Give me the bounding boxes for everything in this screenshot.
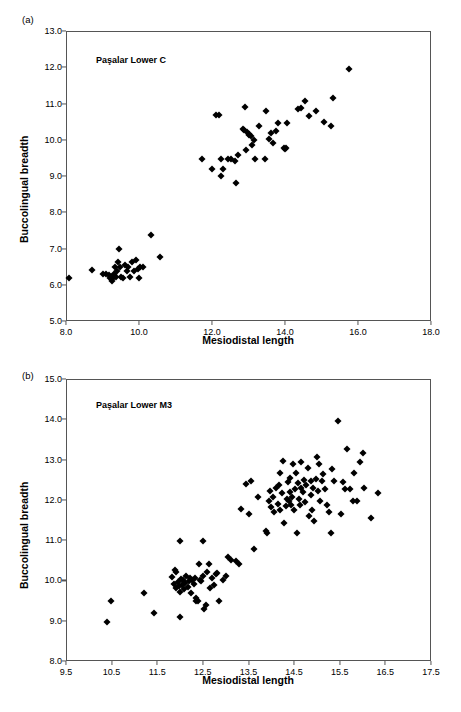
x-tick-label-b-6: 15.5 (331, 667, 349, 677)
x-tick-mark-a-0 (65, 321, 66, 325)
y-tick-label-a-1: 6.0 (28, 280, 62, 290)
x-tick-mark-a-2 (211, 321, 212, 325)
figure-scatter-pair: (a) Paşalar Lower C 5.06.07.08.09.010.01… (0, 0, 461, 712)
y-tick-label-b-5: 13.0 (28, 455, 62, 465)
y-tick-mark-b-3 (62, 540, 66, 541)
x-tick-label-a-4: 16.0 (349, 327, 367, 337)
x-tick-mark-b-4 (248, 661, 249, 665)
x-axis-title-b: Mesiodistal length (202, 674, 294, 686)
y-tick-mark-b-1 (62, 620, 66, 621)
x-tick-mark-b-5 (294, 661, 295, 665)
y-tick-mark-a-3 (62, 212, 66, 213)
x-tick-mark-b-1 (111, 661, 112, 665)
y-tick-label-a-4: 9.0 (28, 171, 62, 181)
x-tick-label-b-7: 16.5 (377, 667, 395, 677)
y-tick-label-a-5: 10.0 (28, 135, 62, 145)
y-tick-label-a-7: 12.0 (28, 62, 62, 72)
y-tick-label-a-2: 7.0 (28, 244, 62, 254)
x-tick-mark-b-0 (65, 661, 66, 665)
y-axis-title-a: Buccolingual breadth (18, 136, 30, 243)
y-tick-label-b-7: 15.0 (28, 374, 62, 384)
x-tick-mark-b-2 (157, 661, 158, 665)
y-tick-mark-b-4 (62, 499, 66, 500)
x-tick-mark-a-4 (357, 321, 358, 325)
y-tick-mark-b-7 (62, 378, 66, 379)
y-tick-label-b-1: 9.0 (28, 616, 62, 626)
x-tick-mark-a-3 (284, 321, 285, 325)
y-tick-mark-b-2 (62, 580, 66, 581)
plot-area-b (66, 379, 431, 661)
x-tick-label-b-2: 11.5 (149, 667, 166, 677)
panel-b: (b) Paşalar Lower M3 8.09.010.011.012.01… (0, 356, 461, 712)
x-axis-title-a: Mesiodistal length (202, 334, 294, 346)
y-tick-label-a-8: 13.0 (28, 26, 62, 36)
x-tick-mark-b-6 (339, 661, 340, 665)
y-axis-title-b: Buccolingual breadth (18, 482, 30, 589)
y-tick-mark-a-6 (62, 103, 66, 104)
y-tick-label-b-4: 12.0 (28, 495, 62, 505)
panel-a: (a) Paşalar Lower C 5.06.07.08.09.010.01… (0, 0, 461, 356)
x-tick-label-a-0: 8.0 (60, 327, 73, 337)
x-tick-label-b-1: 10.5 (103, 667, 121, 677)
y-tick-label-b-6: 14.0 (28, 414, 62, 424)
y-tick-label-a-3: 8.0 (28, 207, 62, 217)
y-tick-mark-b-6 (62, 419, 66, 420)
y-tick-mark-b-5 (62, 459, 66, 460)
panel-a-label: (a) (22, 14, 34, 25)
y-tick-mark-a-1 (62, 284, 66, 285)
x-tick-label-b-0: 9.5 (60, 667, 73, 677)
x-tick-mark-a-1 (138, 321, 139, 325)
x-tick-mark-a-5 (430, 321, 431, 325)
y-tick-mark-a-7 (62, 67, 66, 68)
plot-title-a: Paşalar Lower C (96, 55, 166, 65)
y-tick-label-a-0: 5.0 (28, 316, 62, 326)
y-tick-label-a-6: 11.0 (28, 99, 62, 109)
y-tick-label-b-2: 10.0 (28, 575, 62, 585)
x-tick-mark-b-3 (202, 661, 203, 665)
y-tick-mark-a-4 (62, 175, 66, 176)
x-tick-label-a-1: 10.0 (130, 327, 148, 337)
y-tick-mark-a-2 (62, 248, 66, 249)
x-tick-mark-b-8 (430, 661, 431, 665)
x-tick-mark-b-7 (385, 661, 386, 665)
y-tick-label-b-3: 11.0 (28, 535, 62, 545)
plot-title-b: Paşalar Lower M3 (96, 400, 172, 410)
y-tick-mark-a-5 (62, 139, 66, 140)
y-tick-label-b-0: 8.0 (28, 656, 62, 666)
y-tick-mark-a-8 (62, 30, 66, 31)
x-tick-label-b-8: 17.5 (422, 667, 440, 677)
x-tick-label-a-5: 18.0 (422, 327, 440, 337)
